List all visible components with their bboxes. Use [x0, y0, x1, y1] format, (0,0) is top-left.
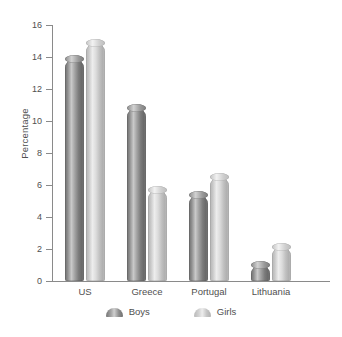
legend-item-boys[interactable]: Boys [106, 307, 150, 317]
legend-label: Boys [129, 307, 150, 317]
bar-cap [251, 261, 270, 269]
bar-cap [189, 191, 208, 199]
legend-swatch-boys [106, 308, 123, 317]
bar-us-boys [65, 59, 84, 281]
bar-cap [86, 39, 105, 47]
bar-cap [65, 55, 84, 63]
bar-portugal-girls [210, 177, 229, 281]
bar-cap [127, 104, 146, 112]
bar-cap [210, 173, 229, 181]
y-axis-title: Percentage [19, 89, 30, 179]
y-axis-tick-label: 16 [16, 21, 42, 30]
bar-cap [272, 243, 291, 251]
plot-area [52, 25, 324, 281]
y-axis-tick-label: 8 [16, 149, 42, 158]
legend-item-girls[interactable]: Girls [194, 307, 237, 317]
y-axis-tick-label: 12 [16, 85, 42, 94]
legend-label: Girls [217, 307, 237, 317]
chart-legend: BoysGirls [0, 307, 342, 317]
x-axis-line [52, 281, 330, 282]
legend-swatch-girls [194, 308, 211, 317]
x-axis-label-lithuania: Lithuania [231, 286, 311, 297]
y-axis-tick [46, 281, 52, 282]
y-axis-tick-label: 14 [16, 53, 42, 62]
y-axis-tick-label: 0 [16, 277, 42, 286]
y-axis-tick-label: 2 [16, 245, 42, 254]
bar-lithuania-girls [272, 247, 291, 281]
bar-us-girls [86, 43, 105, 281]
bar-greece-boys [127, 108, 146, 281]
bar-cap [148, 186, 167, 194]
bar-lithuania-boys [251, 265, 270, 281]
bar-chart: Percentage 1614121086420 USGreecePortuga… [0, 0, 342, 337]
y-axis-tick-label: 4 [16, 213, 42, 222]
bar-greece-girls [148, 190, 167, 281]
y-axis-tick-label: 6 [16, 181, 42, 190]
bar-portugal-boys [189, 195, 208, 281]
y-axis-tick-label: 10 [16, 117, 42, 126]
